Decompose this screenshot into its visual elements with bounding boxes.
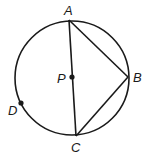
label-p: P — [57, 71, 66, 86]
geometry-diagram: A B C D P — [0, 0, 149, 156]
diagram-canvas: A B C D P — [0, 0, 149, 156]
label-c: C — [71, 140, 81, 155]
point-d — [18, 100, 23, 105]
label-b: B — [133, 70, 142, 85]
label-d: D — [8, 103, 17, 118]
center-point-p — [69, 74, 74, 79]
label-a: A — [63, 3, 73, 18]
segment-ab — [69, 20, 128, 77]
